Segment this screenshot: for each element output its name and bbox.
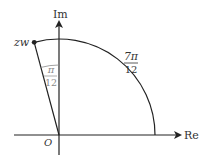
small-angle-denominator: 12 — [45, 77, 57, 88]
point-zw — [32, 40, 37, 45]
origin-label: O — [44, 137, 52, 148]
im-axis-label: Im — [53, 8, 68, 21]
line-origin-to-zw — [34, 42, 59, 135]
zw-label: zw — [13, 36, 30, 49]
argand-diagram: Im Re O zw 7π 12 π 12 — [0, 0, 201, 165]
arc-angle-numerator: 7π — [124, 50, 139, 63]
small-angle-numerator: π — [47, 64, 55, 75]
arc-angle-denominator: 12 — [125, 64, 138, 75]
re-axis-label: Re — [184, 129, 199, 142]
